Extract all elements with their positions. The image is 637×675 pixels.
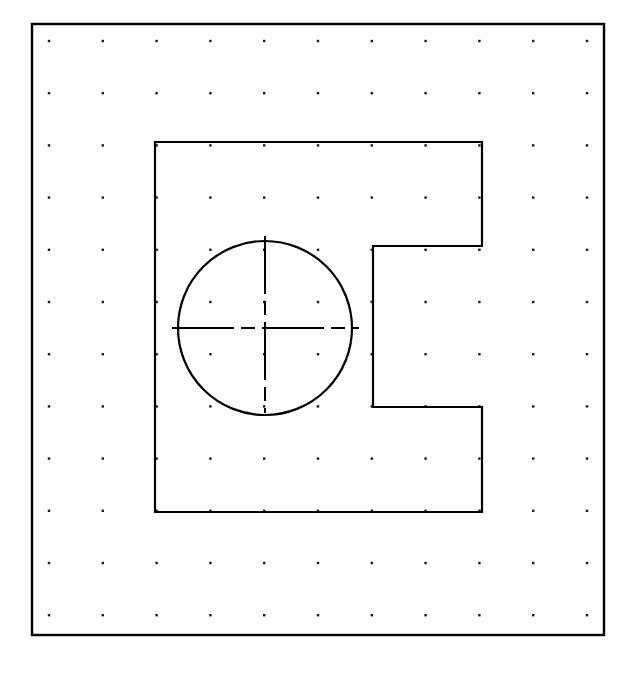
grid-dot [155,40,157,42]
grid-dot [371,196,373,198]
grid-dot [478,40,480,42]
grid-dot [48,562,50,564]
grid-dot [102,405,104,407]
grid-dot [317,562,319,564]
grid-dot [478,562,480,564]
cad-drawing-viewport: CAD Sketch View [0,0,637,675]
grid-dot [586,196,588,198]
grid-dot [586,40,588,42]
grid-dot [263,405,265,407]
grid-dot [102,249,104,251]
grid-dot [102,457,104,459]
grid-dot [532,353,534,355]
grid-dot [263,92,265,94]
grid-dot [155,92,157,94]
grid-dot [586,353,588,355]
grid-dot [478,249,480,251]
grid-dot [48,301,50,303]
grid-dot [532,144,534,146]
grid-dot [317,457,319,459]
grid-dot [48,249,50,251]
grid-dot [586,249,588,251]
grid-dot [263,40,265,42]
grid-dot [317,249,319,251]
grid-dot [102,614,104,616]
grid-dot [478,353,480,355]
grid-dot [48,196,50,198]
canvas-background [0,0,637,675]
grid-dot [424,92,426,94]
grid-dot [102,144,104,146]
grid-dot [102,92,104,94]
grid-dot [263,562,265,564]
drawing-canvas[interactable] [0,0,637,675]
grid-dot [48,144,50,146]
grid-dot [586,614,588,616]
grid-dot [532,510,534,512]
grid-dot [317,144,319,146]
grid-dot [424,562,426,564]
grid-dot [532,40,534,42]
grid-dot [48,405,50,407]
grid-dot [371,92,373,94]
grid-dot [371,562,373,564]
grid-dot [478,92,480,94]
grid-dot [586,144,588,146]
grid-dot [102,562,104,564]
grid-dot [48,457,50,459]
grid-dot [317,353,319,355]
grid-dot [371,144,373,146]
grid-dot [478,196,480,198]
grid-dot [102,510,104,512]
grid-dot [532,301,534,303]
grid-dot [48,614,50,616]
grid-dot [424,40,426,42]
grid-dot [371,614,373,616]
grid-dot [263,457,265,459]
grid-dot [102,40,104,42]
grid-dot [478,144,480,146]
grid-dot [532,92,534,94]
grid-dot [317,405,319,407]
grid-dot [48,510,50,512]
grid-dot [317,92,319,94]
grid-dot [155,614,157,616]
grid-dot [209,196,211,198]
grid-dot [48,40,50,42]
grid-dot [371,457,373,459]
grid-dot [586,92,588,94]
grid-dot [424,353,426,355]
grid-dot [102,196,104,198]
grid-dot [102,353,104,355]
grid-dot [209,249,211,251]
grid-dot [317,301,319,303]
grid-dot [209,457,211,459]
grid-dot [586,562,588,564]
grid-dot [478,457,480,459]
grid-dot [424,301,426,303]
grid-dot [586,510,588,512]
grid-dot [263,614,265,616]
grid-dot [209,40,211,42]
grid-dot [263,196,265,198]
grid-dot [532,614,534,616]
grid-dot [424,196,426,198]
grid-dot [424,614,426,616]
grid-dot [209,301,211,303]
grid-dot [48,92,50,94]
grid-dot [263,144,265,146]
grid-dot [586,457,588,459]
grid-dot [209,405,211,407]
grid-dot [586,405,588,407]
grid-dot [478,614,480,616]
grid-dot [317,614,319,616]
grid-dot [424,457,426,459]
grid-dot [586,301,588,303]
grid-dot [209,614,211,616]
grid-dot [532,457,534,459]
grid-dot [424,144,426,146]
grid-dot [478,301,480,303]
grid-dot [532,405,534,407]
grid-dot [209,92,211,94]
grid-dot [209,562,211,564]
